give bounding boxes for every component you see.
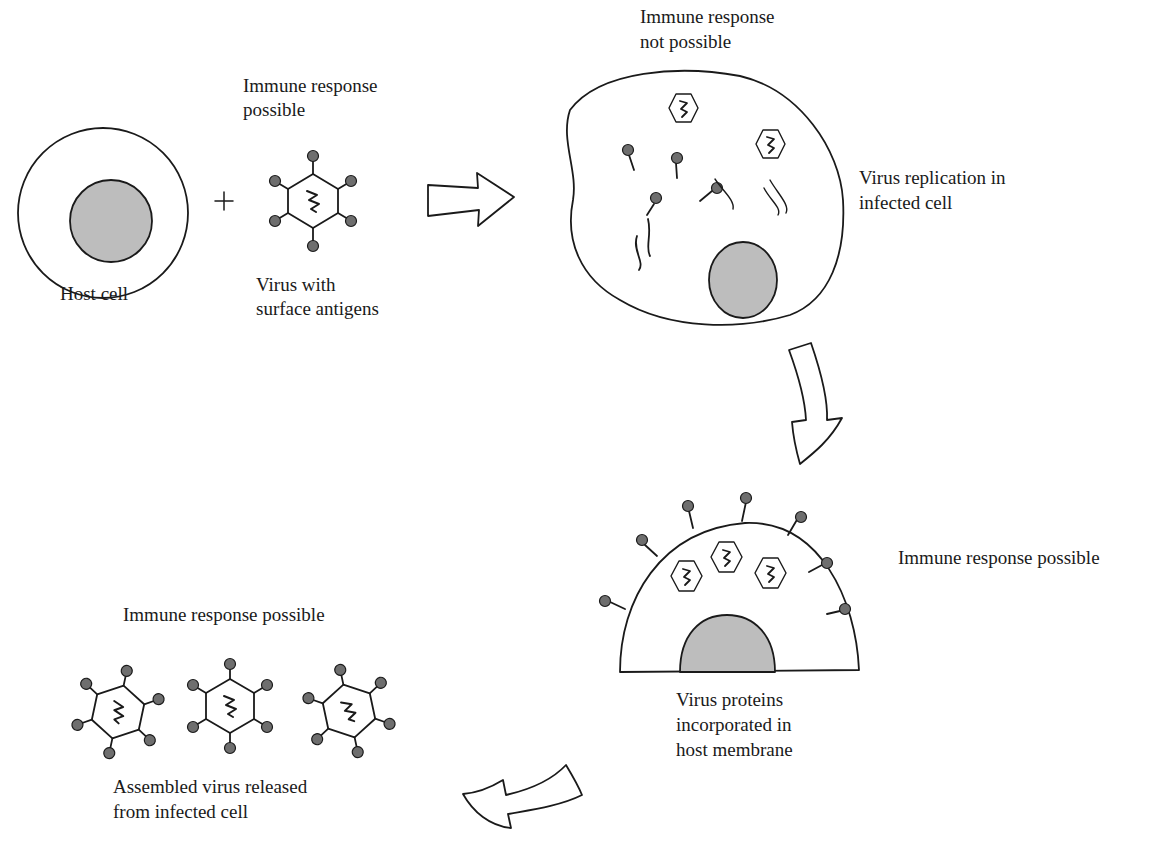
host-cell-label: Host cell — [60, 282, 128, 306]
membrane-immune-label: Immune response possible — [898, 546, 1100, 570]
plus-icon — [215, 192, 233, 210]
infected-immune-label-line2: not possible — [640, 30, 731, 54]
virus-desc-label-line2: surface antigens — [256, 297, 379, 321]
budding-cell — [600, 493, 860, 673]
virus-immune-label-line2: possible — [243, 98, 305, 122]
host-nucleus — [70, 180, 152, 262]
membrane-desc-label-line3: host membrane — [676, 738, 793, 762]
released-virion-2-icon — [188, 659, 273, 754]
released-virion-1-icon — [67, 657, 170, 768]
replication-label-line1: Virus replication in — [859, 166, 1006, 190]
virus-with-antigens-icon — [270, 151, 357, 252]
host-cell — [18, 128, 188, 298]
virus-desc-label-line1: Virus with — [256, 273, 336, 297]
infected-immune-label-line1: Immune response — [640, 5, 775, 29]
arrow-down-left-icon — [463, 765, 582, 828]
membrane-desc-label-line2: incorporated in — [676, 713, 792, 737]
membrane-desc-label-line1: Virus proteins — [676, 688, 783, 712]
replication-label-line2: infected cell — [859, 191, 952, 215]
released-virion-3-icon — [298, 656, 401, 767]
arrow-right-icon — [428, 173, 514, 226]
release-desc-label-line2: from infected cell — [113, 800, 248, 824]
release-desc-label-line1: Assembled virus released — [113, 775, 307, 799]
arrow-down-icon — [789, 343, 842, 464]
infected-cell-nucleus — [709, 242, 777, 318]
virus-immune-label-line1: Immune response — [243, 74, 378, 98]
infected-cell — [567, 71, 843, 325]
release-immune-label: Immune response possible — [123, 603, 325, 627]
